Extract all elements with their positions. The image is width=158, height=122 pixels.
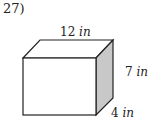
width-label: 4 in: [111, 107, 134, 119]
height-label: 7 in: [125, 66, 148, 78]
length-label: 12 in: [60, 26, 91, 38]
front-face: [23, 58, 96, 115]
rectangular-prism-diagram: [0, 0, 158, 122]
